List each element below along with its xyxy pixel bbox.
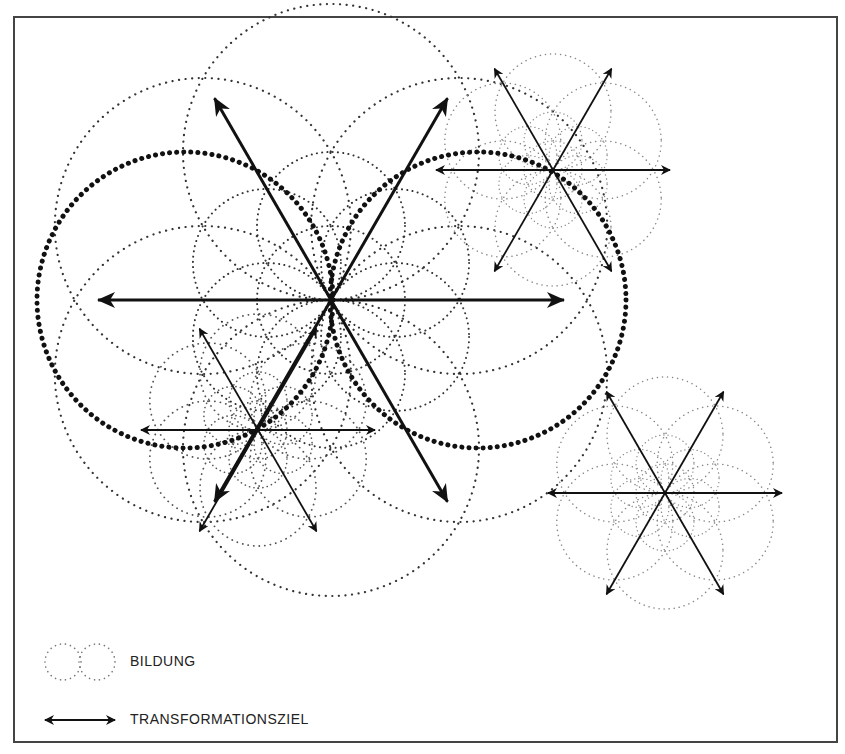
dotted-circle [661, 450, 719, 508]
dotted-circle [545, 141, 661, 257]
flower-of-life-diagram [0, 0, 845, 754]
legend-transformationsziel-label: TRANSFORMATIONSZIEL [130, 711, 309, 727]
transformation-arrows [98, 69, 782, 595]
dotted-circle [250, 401, 366, 517]
dotted-circle [321, 189, 469, 337]
legend-bildung-label: BILDUNG [130, 653, 196, 669]
dotted-circle [445, 141, 561, 257]
legend-bildung-icon [45, 644, 81, 680]
dotted-circle [311, 78, 607, 374]
legend-bildung-icon-2 [79, 644, 115, 680]
dotted-circle [607, 377, 723, 493]
frame [14, 17, 837, 742]
legend [45, 644, 115, 720]
dotted-circle [657, 464, 773, 580]
dotted-circle [557, 464, 673, 580]
bildung-circles [55, 4, 773, 609]
